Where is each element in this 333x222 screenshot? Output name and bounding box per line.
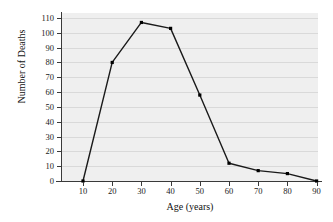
gridline	[62, 77, 318, 78]
y-axis-tick-label: 80	[14, 58, 54, 66]
y-axis-line	[61, 12, 62, 182]
chart-figure: Age (years) Number of Deaths 01020304050…	[0, 0, 333, 222]
y-axis-tick	[57, 18, 62, 19]
x-axis-tick-label: 40	[159, 187, 183, 196]
y-axis-tick-label: 110	[14, 14, 54, 22]
y-axis-tick	[57, 33, 62, 34]
x-axis-tick-label: 50	[188, 187, 212, 196]
x-axis-tick-label: 20	[100, 187, 124, 196]
y-axis-tick-label: 30	[14, 133, 54, 141]
y-axis-tick-label: 10	[14, 162, 54, 170]
y-axis-tick	[57, 122, 62, 123]
x-axis-title: Age (years)	[62, 201, 318, 212]
y-axis-tick-label: 50	[14, 103, 54, 111]
x-axis-line	[56, 181, 322, 182]
plot-area	[62, 13, 318, 181]
y-axis-tick	[57, 62, 62, 63]
y-axis-tick	[57, 166, 62, 167]
gridline	[62, 107, 318, 108]
x-axis-tick-label: 90	[305, 187, 329, 196]
x-axis-tick-label: 30	[129, 187, 153, 196]
x-axis-tick-label: 10	[71, 187, 95, 196]
y-axis-tick	[57, 77, 62, 78]
y-axis-tick	[57, 92, 62, 93]
gridline	[62, 151, 318, 152]
x-axis-tick-label: 60	[217, 187, 241, 196]
y-axis-tick-label: 90	[14, 44, 54, 52]
chart-title	[0, 0, 333, 1]
x-axis-tick-label: 80	[275, 187, 299, 196]
y-axis-tick-label: 20	[14, 147, 54, 155]
y-axis-tick	[57, 48, 62, 49]
y-axis-tick-label: 70	[14, 73, 54, 81]
y-axis-tick-label: 100	[14, 29, 54, 37]
y-axis-tick	[57, 151, 62, 152]
y-axis-tick	[57, 107, 62, 108]
y-axis-tick-label: 40	[14, 118, 54, 126]
gridline	[62, 92, 318, 93]
y-axis-tick-label: 0	[14, 177, 54, 185]
gridline	[62, 62, 318, 63]
gridline	[62, 166, 318, 167]
gridline	[62, 137, 318, 138]
y-axis-tick	[57, 181, 62, 182]
y-axis-tick	[57, 137, 62, 138]
y-axis-tick-label: 60	[14, 88, 54, 96]
gridline	[62, 33, 318, 34]
gridline	[62, 122, 318, 123]
gridline	[62, 48, 318, 49]
x-axis-tick-label: 70	[246, 187, 270, 196]
gridline	[62, 18, 318, 19]
